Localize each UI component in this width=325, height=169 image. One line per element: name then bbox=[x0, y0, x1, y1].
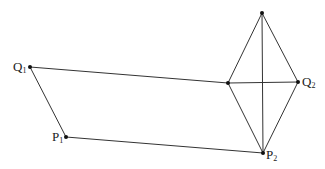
segment-p1-p2 bbox=[66, 137, 263, 153]
label-p1: P1 bbox=[52, 130, 63, 145]
point-t bbox=[260, 11, 264, 15]
diagram-canvas: Q1 P1 Q2 P2 bbox=[0, 0, 325, 169]
segment-l-q2 bbox=[228, 82, 298, 83]
segments-group bbox=[30, 13, 298, 153]
label-q2: Q2 bbox=[302, 75, 315, 90]
segment-q1-p1 bbox=[30, 67, 66, 137]
point-p1 bbox=[64, 135, 68, 139]
point-q2 bbox=[296, 80, 300, 84]
point-p2 bbox=[261, 151, 265, 155]
point-l bbox=[226, 81, 230, 85]
segment-t-l bbox=[228, 13, 262, 83]
label-p2: P2 bbox=[266, 148, 277, 163]
point-q1 bbox=[28, 65, 32, 69]
segment-q2-p2 bbox=[263, 82, 298, 153]
label-q1: Q1 bbox=[13, 60, 26, 75]
segment-q1-l bbox=[30, 67, 228, 83]
segment-l-p2 bbox=[228, 83, 263, 153]
diagram-svg bbox=[0, 0, 325, 169]
segment-t-q2 bbox=[262, 13, 298, 82]
